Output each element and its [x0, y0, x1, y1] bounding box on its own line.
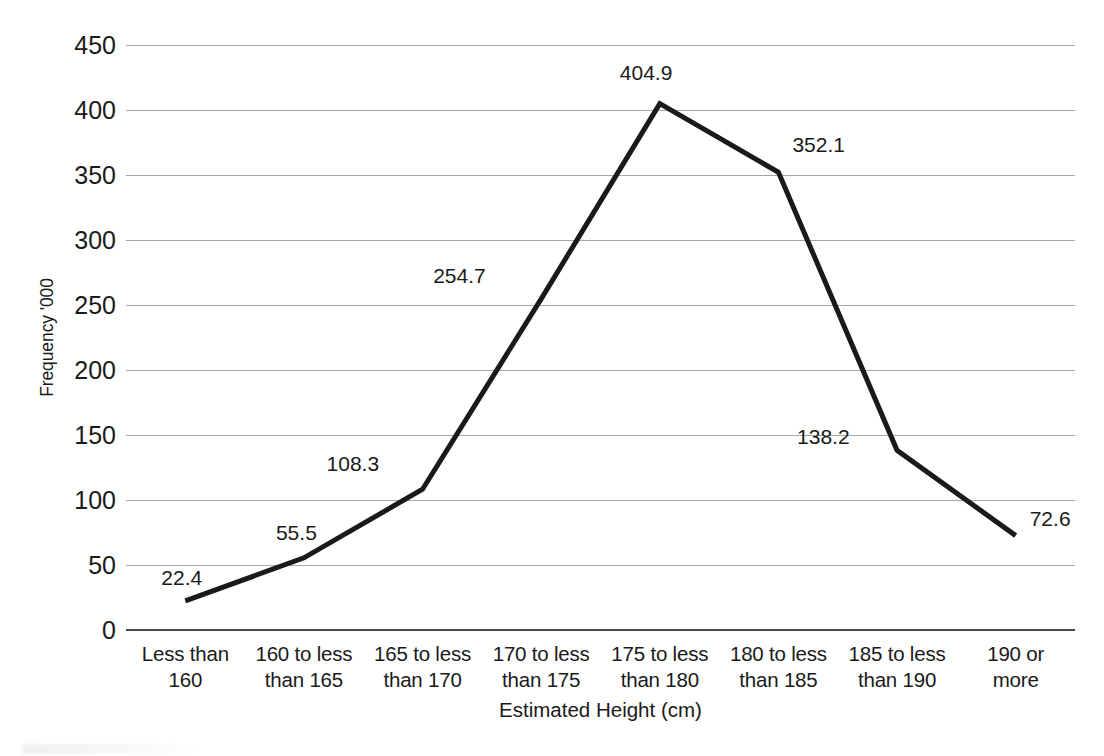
- y-axis-tick-label: 200: [16, 358, 116, 383]
- y-axis-tick-label: 300: [16, 228, 116, 253]
- y-axis-tick-label: 100: [16, 488, 116, 513]
- x-axis-tick-labels: Less than160160 to lessthan 165165 to le…: [126, 641, 1075, 701]
- x-axis-tick-label-line: Less than: [126, 641, 245, 667]
- y-axis-tick-label: 0: [16, 618, 116, 643]
- data-point-label: 404.9: [620, 62, 673, 83]
- y-axis-tick-label: 50: [16, 553, 116, 578]
- y-axis-tick-label: 350: [16, 163, 116, 188]
- y-axis-tick-label: 400: [16, 98, 116, 123]
- data-point-label: 138.2: [797, 426, 850, 447]
- x-axis-tick-label: 180 to lessthan 185: [719, 641, 838, 701]
- series-line: [126, 45, 1075, 630]
- x-axis-tick-label-line: 175 to less: [601, 641, 720, 667]
- x-axis-tick-label-line: than 170: [363, 667, 482, 693]
- x-axis-title: Estimated Height (cm): [126, 697, 1075, 723]
- x-axis-tick-label-line: 180 to less: [719, 641, 838, 667]
- x-axis-tick-label-line: 190 or: [956, 641, 1075, 667]
- y-axis-tick-labels: 050100150200250300350400450: [0, 0, 116, 756]
- y-axis-tick-label: 150: [16, 423, 116, 448]
- x-axis-tick-label-line: than 185: [719, 667, 838, 693]
- x-axis-tick-label: Less than160: [126, 641, 245, 701]
- x-axis-tick-label-line: 160 to less: [245, 641, 364, 667]
- data-point-label: 55.5: [276, 522, 317, 543]
- x-axis-tick-label: 160 to lessthan 165: [245, 641, 364, 701]
- x-axis-tick-label-line: than 190: [838, 667, 957, 693]
- x-axis-tick-label: 165 to lessthan 170: [363, 641, 482, 701]
- x-axis-tick-label-line: than 175: [482, 667, 601, 693]
- x-axis-tick-label-line: more: [956, 667, 1075, 693]
- x-axis-tick-label: 185 to lessthan 190: [838, 641, 957, 701]
- x-axis-tick-label-line: 165 to less: [363, 641, 482, 667]
- x-axis-tick-label-line: 160: [126, 667, 245, 693]
- y-axis-tick-label: 450: [16, 33, 116, 58]
- page-edge-artifact: [22, 744, 202, 754]
- data-point-label: 254.7: [433, 265, 486, 286]
- line-chart-figure: Frequency '000 0501001502002503003504004…: [0, 0, 1104, 756]
- data-point-label: 108.3: [327, 453, 380, 474]
- y-axis-tick-label: 250: [16, 293, 116, 318]
- x-axis-tick-label: 170 to lessthan 175: [482, 641, 601, 701]
- x-axis-tick-label-line: 185 to less: [838, 641, 957, 667]
- data-point-label: 72.6: [1030, 508, 1071, 529]
- x-axis-tick-label-line: 170 to less: [482, 641, 601, 667]
- x-axis-tick-label: 175 to lessthan 180: [601, 641, 720, 701]
- data-point-label: 22.4: [161, 567, 202, 588]
- x-axis-tick-label-line: than 165: [245, 667, 364, 693]
- x-axis-tick-label-line: than 180: [601, 667, 720, 693]
- x-axis-tick-label: 190 ormore: [956, 641, 1075, 701]
- plot-area: [126, 45, 1075, 630]
- data-point-label: 352.1: [792, 134, 845, 155]
